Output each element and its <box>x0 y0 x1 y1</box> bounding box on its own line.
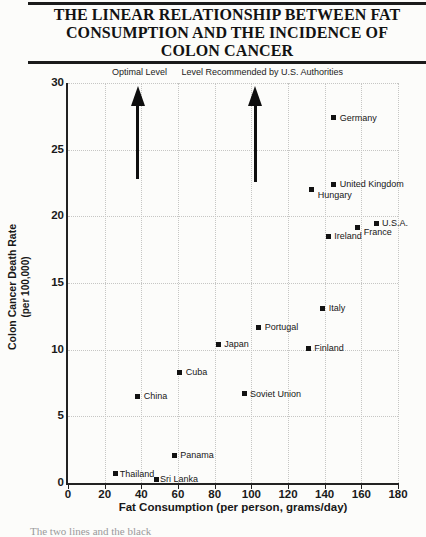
gridline-horizontal <box>68 350 398 351</box>
data-point-marker <box>242 391 247 396</box>
data-point-marker <box>374 221 379 226</box>
title-divider-rule <box>28 61 426 64</box>
chart-title-line-1: THE LINEAR RELATIONSHIP BETWEEN FAT <box>28 6 426 24</box>
gridline-horizontal <box>68 216 398 217</box>
caption-fragment: The two lines and the black <box>30 525 416 537</box>
data-point-marker <box>331 115 336 120</box>
data-point-label: Panama <box>180 450 214 460</box>
data-point-marker <box>177 370 182 375</box>
scanned-figure-page: THE LINEAR RELATIONSHIP BETWEEN FAT CONS… <box>0 0 426 537</box>
x-tick-label: 80 <box>200 488 230 500</box>
x-tick-label: 0 <box>53 488 83 500</box>
data-point-label: Thailand <box>120 469 155 479</box>
up-arrow-icon <box>131 86 145 106</box>
up-arrow-icon <box>248 86 262 106</box>
x-axis-title: Fat Consumption (per person, grams/day) <box>68 501 398 513</box>
data-point-marker <box>331 182 336 187</box>
y-tick-label: 30 <box>36 76 64 88</box>
data-point-label: China <box>144 391 168 401</box>
chart-title-line-2: CONSUMPTION AND THE INCIDENCE OF <box>28 24 426 42</box>
data-point-label: Japan <box>224 339 249 349</box>
data-point-label: Finland <box>314 343 344 353</box>
arrow-annotation-label: Level Recommended by U.S. Authorities <box>182 67 344 77</box>
data-point-label: Germany <box>340 113 377 123</box>
data-point-marker <box>172 453 177 458</box>
data-point-label: Ireland <box>334 231 362 241</box>
y-tick-label: 25 <box>36 143 64 155</box>
data-point-marker <box>309 187 314 192</box>
data-point-label: France <box>364 227 392 237</box>
y-tick-label: 0 <box>36 476 64 488</box>
x-tick-label: 120 <box>273 488 303 500</box>
data-point-marker <box>320 306 325 311</box>
y-axis-title: Colon Cancer Death Rate (per 100,000) <box>6 167 34 407</box>
x-tick-label: 100 <box>236 488 266 500</box>
x-axis-line <box>66 483 399 485</box>
y-axis-title-sub: (per 100,000) <box>19 167 32 407</box>
data-point-label: Cuba <box>186 367 208 377</box>
data-point-marker <box>135 394 140 399</box>
x-tick-label: 20 <box>90 488 120 500</box>
gridline-horizontal <box>68 150 398 151</box>
x-tick-label: 180 <box>383 488 413 500</box>
data-point-label: Soviet Union <box>250 389 301 399</box>
data-point-marker <box>113 471 118 476</box>
y-tick-label: 10 <box>36 343 64 355</box>
x-tick-label: 60 <box>163 488 193 500</box>
gridline-horizontal <box>68 283 398 284</box>
data-point-label: U.S.A. <box>382 218 408 228</box>
gridline-horizontal <box>68 83 398 84</box>
top-rule <box>28 2 426 5</box>
gridline-horizontal <box>68 416 398 417</box>
data-point-marker <box>306 346 311 351</box>
data-point-label: Italy <box>329 303 346 313</box>
data-point-marker <box>216 342 221 347</box>
data-point-label: Sri Lanka <box>160 474 198 484</box>
data-point-marker <box>326 234 331 239</box>
x-tick-label: 40 <box>126 488 156 500</box>
arrow-annotation-label: Optimal Level <box>112 67 167 77</box>
y-tick-label: 20 <box>36 209 64 221</box>
up-arrow-shaft <box>136 104 139 179</box>
data-point-label: United Kingdom <box>340 179 404 189</box>
y-axis-line <box>66 83 68 485</box>
data-point-label: Portugal <box>265 322 299 332</box>
data-point-marker <box>355 225 360 230</box>
x-tick-label: 160 <box>346 488 376 500</box>
y-axis-title-main: Colon Cancer Death Rate <box>6 167 19 407</box>
x-tick-label: 140 <box>310 488 340 500</box>
data-point-label: Hungary <box>318 190 352 200</box>
data-point-marker <box>256 325 261 330</box>
y-tick-label: 15 <box>36 276 64 288</box>
chart-title-line-3: COLON CANCER <box>28 42 426 60</box>
gridline-vertical <box>398 83 399 483</box>
chart-title: THE LINEAR RELATIONSHIP BETWEEN FAT CONS… <box>28 6 426 60</box>
y-tick-label: 5 <box>36 409 64 421</box>
up-arrow-shaft <box>254 104 257 182</box>
data-point-marker <box>154 477 159 482</box>
